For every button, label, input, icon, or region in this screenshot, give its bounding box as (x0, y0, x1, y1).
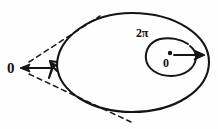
figure-canvas: 0 0 2π (0, 0, 218, 129)
inner-loop-curve (146, 38, 196, 76)
left-radial-arrow-head (20, 64, 30, 72)
inner-center-dot (168, 51, 172, 55)
angle-label-two-pi: 2π (136, 27, 148, 39)
figure-svg (0, 0, 218, 129)
outer-origin-label: 0 (7, 61, 15, 76)
inner-origin-label: 0 (163, 57, 169, 69)
